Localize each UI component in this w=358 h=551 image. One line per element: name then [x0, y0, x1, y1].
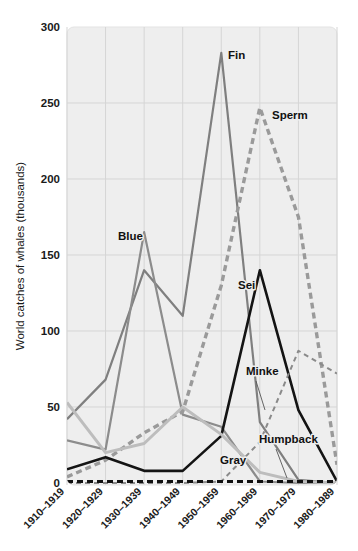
- y-tick-label: 300: [41, 21, 60, 33]
- x-axis-ticks: 1910–19191920–19291930–19391940–19491950…: [21, 485, 337, 531]
- series-label-blue: Blue: [118, 230, 143, 242]
- series-label-humpback: Humpback: [259, 433, 318, 445]
- x-tick-label: 1980–1989: [291, 485, 337, 531]
- whale-catches-chart: 050100150200250300 World catches of whal…: [0, 0, 358, 551]
- series-label-fin: Fin: [228, 49, 245, 61]
- y-tick-label: 100: [41, 325, 60, 337]
- y-axis-ticks: 050100150200250300: [41, 21, 60, 489]
- y-axis-title: World catches of whales (thousands): [14, 162, 26, 351]
- series-label-sei: Sei: [238, 279, 255, 291]
- series-label-gray: Gray: [220, 454, 247, 466]
- plot-area-background: [67, 27, 337, 485]
- y-tick-label: 200: [41, 173, 60, 185]
- y-tick-label: 250: [41, 97, 60, 109]
- series-label-minke: Minke: [246, 365, 279, 377]
- series-label-sperm: Sperm: [272, 109, 308, 121]
- y-tick-label: 50: [47, 401, 60, 413]
- chart-svg: 050100150200250300 World catches of whal…: [0, 0, 358, 551]
- y-tick-label: 150: [41, 249, 60, 261]
